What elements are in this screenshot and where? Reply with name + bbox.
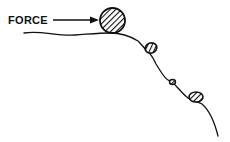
slope-line — [24, 32, 218, 136]
pebble — [170, 80, 176, 85]
force-label: FORCE — [8, 14, 48, 26]
large-boulder — [100, 8, 125, 33]
rock-2 — [189, 92, 203, 102]
force-slope-diagram: FORCE — [0, 0, 230, 142]
force-arrow-icon — [53, 17, 99, 24]
rock-1 — [144, 41, 159, 55]
